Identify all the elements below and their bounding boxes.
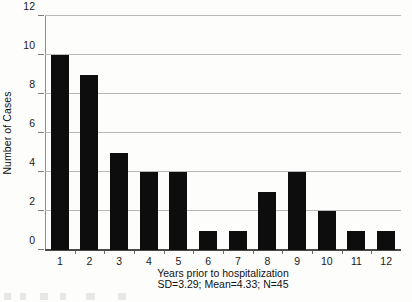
- x-axis-tick-label: 11: [351, 256, 362, 267]
- bar: [199, 231, 217, 250]
- bar-slot: [371, 16, 401, 250]
- bar: [80, 75, 98, 251]
- bar: [110, 153, 128, 251]
- y-axis-tick-label: 8: [29, 78, 35, 89]
- bar-slot: [253, 16, 283, 250]
- bar-slot: [342, 16, 372, 250]
- y-axis-tick-label: 6: [29, 117, 35, 128]
- bar-slot: [312, 16, 342, 250]
- y-axis-tick: [38, 249, 44, 250]
- bar-slot: [104, 16, 134, 250]
- bar-slot: [193, 16, 223, 250]
- bar: [347, 231, 365, 250]
- y-axis-tick-label: 12: [23, 0, 35, 11]
- x-axis-line: [45, 250, 401, 251]
- x-axis-tick-label: 10: [321, 256, 333, 267]
- x-axis-tick-label: 5: [176, 256, 182, 267]
- y-axis-tick-label: 4: [29, 156, 35, 167]
- bar: [318, 211, 336, 250]
- x-axis-tick-label: 6: [205, 256, 211, 267]
- bar: [258, 192, 276, 251]
- plot-area: 024681012: [45, 16, 401, 250]
- y-axis-tick: [38, 54, 44, 55]
- y-axis-tick: [38, 210, 44, 211]
- x-axis-tick-label: 2: [87, 256, 93, 267]
- bar-slot: [75, 16, 105, 250]
- y-axis-tick-label: 0: [29, 234, 35, 245]
- bar: [288, 172, 306, 250]
- y-axis-title: Number of Cases: [1, 91, 13, 174]
- scan-artifact: [0, 293, 180, 300]
- bar-slot: [223, 16, 253, 250]
- bar: [229, 231, 247, 250]
- bar: [377, 231, 395, 250]
- y-axis-tick-label: 10: [23, 39, 35, 50]
- bar: [140, 172, 158, 250]
- bar-slot: [134, 16, 164, 250]
- bar-slot: [45, 16, 75, 250]
- x-axis-tick-label: 12: [380, 256, 392, 267]
- bar-slot: [164, 16, 194, 250]
- x-axis-statistics-label: SD=3.29; Mean=4.33; N=45: [45, 279, 401, 290]
- x-axis-tick-label: 3: [116, 256, 122, 267]
- y-axis-tick: [38, 132, 44, 133]
- x-axis-tick-label: 1: [57, 256, 63, 267]
- chart-page: Number of Cases 024681012 12345678910111…: [0, 0, 412, 302]
- bar: [51, 55, 69, 250]
- x-axis-tick-label: 8: [265, 256, 271, 267]
- y-axis-tick: [38, 93, 44, 94]
- x-axis-tick-label: 9: [294, 256, 300, 267]
- y-axis-tick: [38, 171, 44, 172]
- y-axis-tick-label: 2: [29, 195, 35, 206]
- x-axis-tick-label: 7: [235, 256, 241, 267]
- bar-slot: [282, 16, 312, 250]
- x-axis-tick-label: 4: [146, 256, 152, 267]
- bar: [169, 172, 187, 250]
- y-axis-tick: [38, 15, 44, 16]
